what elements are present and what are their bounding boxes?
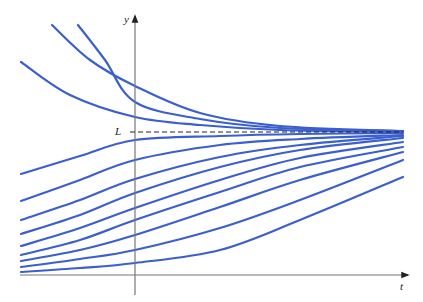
curve-above-1 [52, 25, 403, 131]
chart-canvas [0, 0, 423, 302]
limit-label: L [115, 125, 121, 137]
curve-below-9 [21, 177, 403, 272]
curve-below-3 [21, 136, 403, 220]
y-axis-label: y [124, 13, 129, 25]
t-axis-label: t [400, 280, 403, 292]
curve-below-4 [21, 138, 403, 234]
solution-curves [21, 25, 403, 272]
